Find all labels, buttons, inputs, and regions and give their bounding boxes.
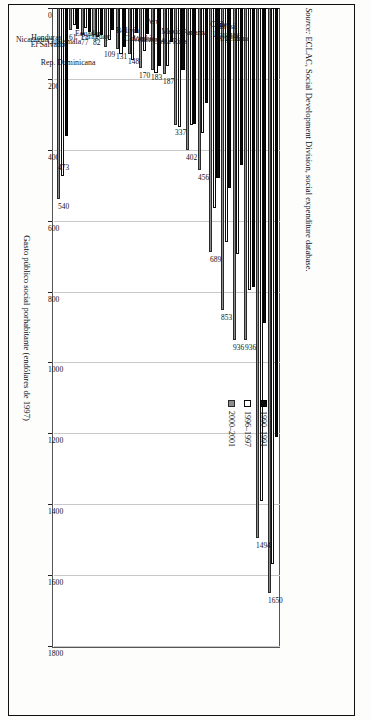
data-label: 61 — [69, 34, 76, 41]
source-note-viewport: Source: ECLAC, Social Development Divisi… — [300, 8, 358, 712]
bar — [73, 8, 76, 25]
source-body: ECLAC, Social Development Division, soci… — [304, 37, 314, 272]
bar-group — [115, 8, 126, 648]
category-label: Bolivia — [116, 27, 139, 35]
bar — [190, 8, 193, 125]
bar — [69, 8, 72, 30]
bar-group — [138, 8, 149, 648]
bar — [240, 8, 243, 165]
figure-page: 020040060080010001200140016001800 Argent… — [0, 0, 371, 720]
legend-swatch-1996-1997-icon — [244, 400, 251, 407]
data-label: 183 — [151, 74, 162, 81]
bar — [233, 8, 236, 340]
category-label: Perú — [145, 18, 159, 26]
bar-group — [92, 8, 103, 648]
category-label: Uruguay — [213, 31, 240, 39]
bar-group — [267, 8, 278, 648]
bar — [174, 8, 177, 125]
legend-item: 1990–1991 — [259, 400, 268, 447]
bar-group — [57, 8, 68, 648]
axis-tick-mark — [48, 221, 52, 222]
bar-group — [150, 8, 161, 648]
legend: 1990–1991 1996–1997 2000–2001 — [220, 400, 268, 447]
axis-tick-mark — [48, 292, 52, 293]
source-prefix: Source: — [304, 8, 314, 34]
data-label: 109 — [104, 51, 115, 58]
category-label: Colombia — [124, 35, 155, 43]
legend-label: 1996–1997 — [243, 411, 252, 447]
bar — [244, 8, 247, 340]
bar — [236, 8, 239, 254]
data-label: 131 — [116, 53, 127, 60]
axis-tick-mark — [48, 646, 52, 647]
legend-label: 2000–2001 — [227, 411, 236, 447]
bar-group — [162, 8, 173, 648]
data-label: 456 — [198, 174, 209, 181]
category-label: Panamá — [183, 29, 208, 37]
bar — [193, 8, 196, 124]
bar-group — [255, 8, 266, 648]
bar — [275, 8, 278, 437]
chart-rotated-viewport: 020040060080010001200140016001800 Argent… — [14, 8, 284, 712]
bar — [271, 8, 274, 564]
category-label: Chile — [210, 21, 227, 29]
legend-item: 2000–2001 — [227, 400, 236, 447]
data-label: 853 — [221, 314, 232, 321]
bar — [225, 8, 228, 242]
bar — [209, 8, 212, 252]
chart-canvas: 020040060080010001200140016001800 Argent… — [14, 8, 284, 712]
data-label: 337 — [175, 129, 186, 136]
bar-group — [185, 8, 196, 648]
data-label: 148 — [128, 58, 139, 65]
bar-group — [80, 8, 91, 648]
data-label: 689 — [210, 256, 221, 263]
data-label: 936 — [233, 344, 244, 351]
data-label: 187 — [163, 78, 174, 85]
bar — [76, 8, 79, 29]
data-label: 540 — [58, 203, 69, 210]
category-label: Rep. Dominicana — [41, 59, 96, 67]
bar-group — [232, 8, 243, 648]
data-label: 77 — [81, 39, 88, 46]
bar — [256, 8, 259, 538]
axis-tick-mark — [48, 433, 52, 434]
data-label: 402 — [186, 154, 197, 161]
bar-group — [220, 8, 231, 648]
source-note-canvas: Source: ECLAC, Social Development Divisi… — [300, 8, 358, 712]
legend-label: 1990–1991 — [259, 411, 268, 447]
axis-tick-mark — [48, 79, 52, 80]
bar — [268, 8, 271, 593]
data-label: 1650 — [268, 597, 283, 604]
axis-tick-mark — [48, 150, 52, 151]
axis-tick-mark — [48, 8, 52, 9]
axis-tick-mark — [48, 362, 52, 363]
bar — [61, 8, 64, 176]
source-note: Source: ECLAC, Social Development Divisi… — [300, 8, 314, 272]
data-label: 1494 — [256, 542, 271, 549]
data-label: 82 — [93, 39, 100, 46]
bar — [205, 8, 208, 103]
bar — [263, 8, 266, 323]
bar-group — [209, 8, 220, 648]
bar — [248, 8, 251, 290]
data-label: 936 — [245, 344, 256, 351]
legend-item: 1996–1997 — [243, 400, 252, 447]
bar — [65, 8, 68, 136]
bar-group — [244, 8, 255, 648]
bar — [221, 8, 224, 310]
bar — [111, 8, 114, 30]
value-axis-title: Gasto público social porhabitante (endól… — [22, 8, 32, 648]
bar-group — [68, 8, 79, 648]
bar-group — [174, 8, 185, 648]
axis-tick-label: 1800 — [48, 649, 63, 658]
axis-tick-mark — [48, 504, 52, 505]
data-label: 473 — [58, 164, 69, 171]
bar — [252, 8, 255, 287]
bar — [143, 8, 146, 51]
legend-swatch-1990-1991-icon — [260, 400, 267, 407]
axis-tick-label: 0 — [48, 11, 52, 20]
bar-group — [197, 8, 208, 648]
legend-swatch-2000-2001-icon — [228, 400, 235, 407]
bar — [84, 8, 87, 28]
bar-group — [103, 8, 114, 648]
